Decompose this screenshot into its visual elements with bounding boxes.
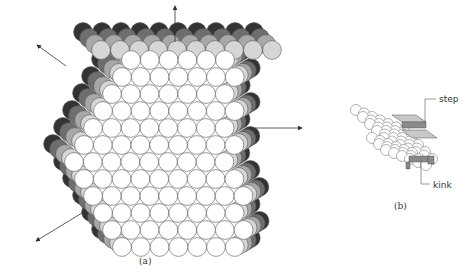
front-atom (178, 51, 197, 70)
front-atom (159, 85, 178, 104)
front-atom (188, 238, 207, 257)
front-atom (150, 170, 169, 189)
front-atom (121, 119, 140, 138)
front-atom (140, 51, 159, 70)
front-atom (150, 238, 169, 257)
edge-atom (244, 41, 263, 60)
front-atom (121, 85, 140, 104)
front-atom (112, 102, 131, 121)
front-atom (131, 136, 150, 155)
front-atom (113, 68, 132, 87)
front-atom (122, 51, 141, 70)
front-atom (113, 238, 132, 257)
front-atom (112, 204, 131, 223)
front-atom (169, 204, 188, 223)
front-atom (215, 187, 234, 206)
front-atom (197, 85, 216, 104)
front-atom (83, 153, 102, 172)
front-atom (159, 153, 178, 172)
front-atom (178, 221, 197, 240)
axis-arrow-upper-left (37, 45, 66, 66)
front-atom (102, 187, 121, 206)
front-atom (140, 119, 159, 138)
front-atom (140, 221, 159, 240)
front-atom (215, 153, 234, 172)
front-atom (112, 136, 131, 155)
front-atom (187, 170, 206, 189)
front-atom (159, 119, 178, 138)
front-atom (150, 136, 169, 155)
front-atom (197, 51, 216, 70)
front-atom (188, 204, 207, 223)
front-atom (169, 170, 188, 189)
front-atom (178, 187, 197, 206)
front-atom (169, 136, 188, 155)
front-atom (169, 68, 188, 87)
front-atom (225, 136, 244, 155)
front-atom (196, 119, 215, 138)
front-atom (102, 153, 121, 172)
front-atom (140, 153, 159, 172)
front-atom (159, 187, 178, 206)
front-atom (207, 238, 226, 257)
front-atom (215, 85, 234, 104)
front-atom (75, 170, 94, 189)
caption-b: (b) (394, 201, 407, 211)
front-atom (225, 238, 244, 257)
front-atom (159, 221, 178, 240)
edge-atom (263, 41, 282, 60)
front-atom (225, 204, 244, 223)
front-atom (150, 204, 169, 223)
front-atom (103, 221, 122, 240)
front-atom (216, 51, 235, 70)
front-atom (121, 221, 140, 240)
front-atom (84, 187, 103, 206)
front-atom (131, 204, 150, 223)
front-atom (188, 102, 207, 121)
front-atom (94, 102, 113, 121)
kink-block-3 (406, 162, 410, 169)
front-atom (150, 68, 169, 87)
front-atom (102, 119, 121, 138)
front-atom (178, 119, 197, 138)
front-atom (131, 102, 150, 121)
front-atom (65, 153, 84, 172)
front-atom (93, 170, 112, 189)
front-atom (93, 136, 112, 155)
front-atom (169, 102, 188, 121)
front-atom (121, 187, 140, 206)
front-atom (188, 68, 207, 87)
front-atom (187, 136, 206, 155)
front-atom (131, 238, 150, 257)
front-atom (140, 85, 159, 104)
kink-block-2 (428, 156, 434, 164)
front-atom (140, 187, 159, 206)
kink-block (409, 156, 428, 162)
caption-a: (a) (139, 256, 151, 266)
front-atom (206, 102, 225, 121)
kink-label: kink (433, 180, 452, 190)
front-atom (150, 102, 169, 121)
step-plate-edge (402, 122, 426, 128)
front-atom (75, 136, 94, 155)
front-atom (94, 204, 113, 223)
edge-atom (92, 41, 111, 60)
front-atom (206, 136, 225, 155)
front-atom (112, 170, 131, 189)
front-atom (84, 119, 103, 138)
front-atom (103, 85, 122, 104)
front-atom (225, 68, 244, 87)
front-atom (196, 187, 215, 206)
axis-arrow-lower-left (36, 213, 82, 241)
front-atom (234, 187, 253, 206)
crystal-figure-b (320, 60, 465, 240)
crystal-figure-a (0, 0, 320, 279)
front-atom (215, 221, 234, 240)
front-atom (207, 68, 226, 87)
front-atom (121, 153, 140, 172)
step-plate-top (392, 115, 426, 122)
front-atom (178, 85, 197, 104)
front-atom (206, 170, 225, 189)
front-atom (234, 221, 253, 240)
front-atom (169, 238, 188, 257)
